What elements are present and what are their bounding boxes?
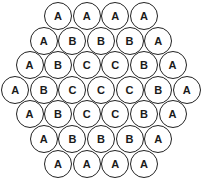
circle-cell-a: A xyxy=(130,150,158,178)
circle-cell-a: A xyxy=(30,27,58,55)
circle-cell-a: A xyxy=(44,2,72,30)
circle-cell-a: A xyxy=(16,100,44,128)
circle-cell-a: A xyxy=(30,125,58,153)
circle-cell-c: C xyxy=(101,100,129,128)
circle-cell-a: A xyxy=(159,100,187,128)
circle-cell-b: B xyxy=(87,125,115,153)
circle-cell-a: A xyxy=(73,150,101,178)
circle-cell-b: B xyxy=(44,100,72,128)
circle-cell-a: A xyxy=(73,2,101,30)
circle-cell-b: B xyxy=(116,27,144,55)
circle-cell-a: A xyxy=(144,27,172,55)
circle-cell-b: B xyxy=(116,125,144,153)
circle-cell-a: A xyxy=(130,2,158,30)
circle-cell-a: A xyxy=(101,2,129,30)
circle-cell-a: A xyxy=(144,125,172,153)
circle-cell-a: A xyxy=(44,150,72,178)
circle-cell-c: C xyxy=(101,51,129,79)
circle-cell-a: A xyxy=(16,51,44,79)
circle-cell-a: A xyxy=(159,51,187,79)
circle-cell-b: B xyxy=(130,51,158,79)
circle-cell-b: B xyxy=(44,51,72,79)
circle-cell-b: B xyxy=(58,125,86,153)
circle-cell-a: A xyxy=(101,150,129,178)
circle-cell-c: C xyxy=(73,51,101,79)
circle-cell-b: B xyxy=(130,100,158,128)
hex-circle-diagram: AAAAABBBAABCCBAABCCCBAABCCBAABBBAAAAA xyxy=(0,0,202,184)
circle-cell-b: B xyxy=(58,27,86,55)
circle-cell-c: C xyxy=(73,100,101,128)
